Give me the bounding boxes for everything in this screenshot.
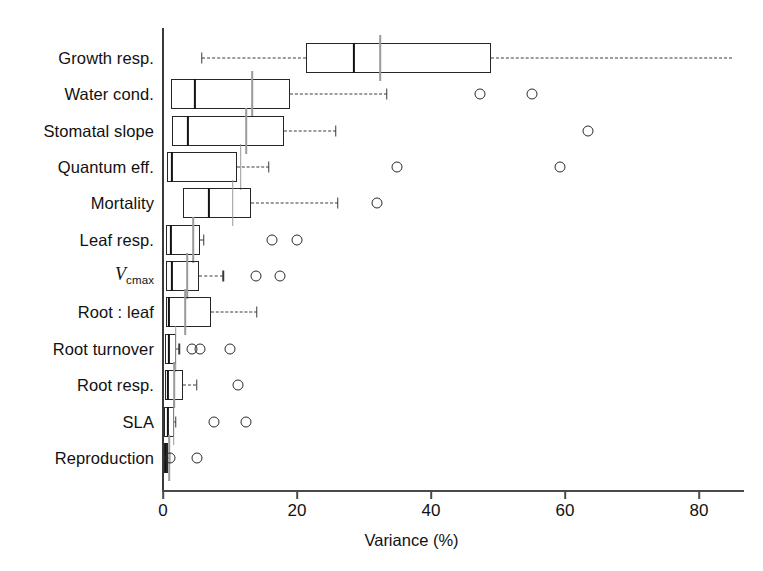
whisker-high (199, 276, 223, 277)
whisker-cap-high (268, 162, 270, 173)
y-axis-label-quantum-eff: Quantum eff. (58, 159, 154, 176)
median-line (353, 43, 355, 73)
whisker-high (211, 312, 257, 313)
y-axis-label-text: Reproduction (55, 449, 154, 467)
y-axis-label-text: Stomatal slope (43, 121, 154, 139)
x-tick-label-20: 20 (288, 501, 307, 521)
whisker-cap-high (175, 416, 177, 427)
outlier-point (241, 416, 252, 427)
outlier-point (372, 198, 383, 209)
x-tick-label-60: 60 (556, 501, 575, 521)
x-tick-80 (698, 490, 700, 499)
y-axis-label-text: Root : leaf (78, 303, 154, 321)
x-tick-label-80: 80 (690, 501, 709, 521)
outlier-point (474, 89, 485, 100)
mean-line (245, 108, 247, 154)
x-tick-label-0: 0 (158, 501, 167, 521)
whisker-cap-high (178, 343, 180, 354)
mean-line (240, 144, 242, 190)
outlier-point (582, 125, 593, 136)
outlier-point (225, 343, 236, 354)
outlier-point (164, 452, 175, 463)
x-tick-label-40: 40 (422, 501, 441, 521)
mean-line (251, 71, 253, 117)
x-tick-60 (564, 490, 566, 499)
whisker-high (183, 385, 196, 386)
mean-line (184, 289, 186, 335)
outlier-point (191, 452, 202, 463)
y-axis-label-leaf-resp: Leaf resp. (80, 232, 154, 249)
whisker-high (290, 94, 386, 95)
median-line (194, 79, 196, 109)
y-axis-label-root-leaf: Root : leaf (78, 304, 154, 321)
y-axis-label-mortality: Mortality (91, 195, 154, 212)
median-line (167, 370, 169, 400)
median-line (171, 261, 173, 291)
whisker-cap-low (201, 53, 203, 64)
box-plot-figure: Growth resp.Water cond.Stomatal slopeQua… (0, 0, 763, 571)
whisker-cap-high (335, 125, 337, 136)
median-line (167, 407, 169, 437)
y-axis-label-text: SLA (123, 412, 155, 430)
outlier-point (526, 89, 537, 100)
y-axis-label-sla: SLA (123, 413, 155, 430)
mean-line (379, 35, 381, 81)
outlier-point (194, 343, 205, 354)
x-tick-40 (430, 490, 432, 499)
whisker-cap-high (386, 89, 388, 100)
y-axis-label-text: V (115, 264, 126, 284)
outlier-point (555, 162, 566, 173)
mean-line (232, 180, 234, 226)
median-line (170, 225, 172, 255)
whisker-cap-high (196, 380, 198, 391)
y-axis-label-text: Root turnover (53, 340, 154, 358)
box-iqr (167, 152, 237, 182)
box-iqr (183, 188, 251, 218)
median-line (168, 297, 170, 327)
y-axis-label-growth-resp: Growth resp. (58, 50, 154, 67)
x-axis-title-label: Variance (%) (364, 531, 458, 549)
y-axis-label-text: Root resp. (77, 376, 154, 394)
y-axis-label-text: Leaf resp. (80, 231, 154, 249)
outlier-point (292, 234, 303, 245)
y-axis-label-text: Growth resp. (58, 49, 154, 67)
y-axis-label-root-resp: Root resp. (77, 377, 154, 394)
y-axis-label-text: Water cond. (65, 85, 154, 103)
whisker-cap-high (256, 307, 258, 318)
y-axis-label-reproduction: Reproduction (55, 450, 154, 467)
outlier-point (208, 416, 219, 427)
y-axis-label-text: Mortality (91, 194, 154, 212)
x-axis-title: Variance (%) (0, 531, 763, 550)
whisker-high (251, 203, 338, 204)
median-line (168, 334, 170, 364)
box-iqr (166, 297, 212, 327)
outlier-point (391, 162, 402, 173)
mean-line (173, 399, 175, 445)
whisker-cap-high (203, 234, 205, 245)
outlier-point (233, 380, 244, 391)
whisker-high (491, 58, 732, 59)
y-axis-label-text: Quantum eff. (58, 158, 154, 176)
outlier-point (267, 234, 278, 245)
x-axis-line (162, 490, 744, 492)
y-axis-label-root-turnover: Root turnover (53, 341, 154, 358)
whisker-high (284, 130, 336, 131)
y-axis-label-vcmax: Vcmax (115, 265, 154, 287)
y-axis-category-labels: Growth resp.Water cond.Stomatal slopeQua… (0, 0, 154, 571)
box-iqr (306, 43, 491, 73)
y-axis-label-stomatal-slope: Stomatal slope (43, 122, 154, 139)
mean-line (192, 217, 194, 263)
outlier-point (275, 271, 286, 282)
box-iqr (171, 79, 290, 109)
whisker-cap-high (223, 271, 225, 282)
x-tick-0 (162, 490, 164, 499)
mean-line (186, 253, 188, 299)
y-axis-label-water-cond: Water cond. (65, 86, 154, 103)
x-tick-20 (296, 490, 298, 499)
y-axis-label-subscript: cmax (126, 274, 154, 286)
whisker-low (202, 58, 307, 59)
outlier-point (251, 271, 262, 282)
whisker-cap-high (337, 198, 339, 209)
median-line (208, 188, 210, 218)
median-line (187, 116, 189, 146)
